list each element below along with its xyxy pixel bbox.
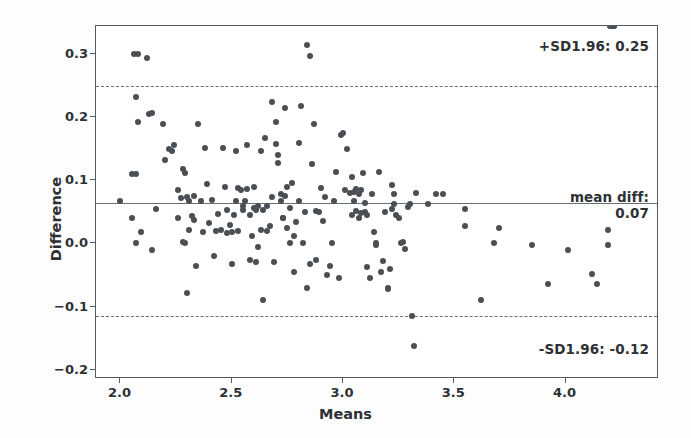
bland-altman-figure: Difference 0.30.20.10.0−0.1−0.2 +SD1.96:… (0, 0, 691, 438)
scatter-point (255, 244, 261, 250)
scatter-point (331, 198, 337, 204)
mean-diff-value: 0.07 (570, 205, 649, 221)
y-tick-label: 0.0 (48, 235, 88, 250)
scatter-point (242, 198, 248, 204)
upper-loa-annotation: +SD1.96: 0.25 (539, 38, 649, 54)
scatter-point (253, 259, 259, 265)
scatter-point (235, 228, 241, 234)
scatter-point (304, 285, 310, 291)
scatter-point (425, 201, 431, 207)
scatter-point (349, 174, 355, 180)
scatter-point (336, 275, 342, 281)
scatter-point (296, 198, 302, 204)
scatter-point (318, 185, 324, 191)
scatter-point (144, 55, 150, 61)
scatter-point (202, 145, 208, 151)
scatter-point (149, 247, 155, 253)
scatter-point (149, 110, 155, 116)
scatter-point (153, 206, 159, 212)
scatter-point (491, 240, 497, 246)
scatter-point (407, 201, 413, 207)
scatter-point (327, 263, 333, 269)
scatter-point (244, 186, 250, 192)
x-tick-label: 4.0 (553, 385, 576, 400)
scatter-point (402, 246, 408, 252)
scatter-point (275, 160, 281, 166)
scatter-point (545, 281, 551, 287)
scatter-point (178, 195, 184, 201)
scatter-point (133, 171, 139, 177)
scatter-point (462, 223, 468, 229)
scatter-point (291, 269, 297, 275)
scatter-point (182, 170, 188, 176)
scatter-point (211, 253, 217, 259)
lower-loa-annotation: -SD1.96: -0.12 (539, 341, 649, 357)
scatter-point (360, 170, 366, 176)
scatter-point (356, 215, 362, 221)
scatter-point (273, 141, 279, 147)
scatter-point (238, 187, 244, 193)
y-tick-label: 0.2 (48, 109, 88, 124)
scatter-point (300, 240, 306, 246)
scatter-point (171, 142, 177, 148)
scatter-point (273, 119, 279, 125)
scatter-point (206, 220, 212, 226)
scatter-point (344, 146, 350, 152)
scatter-point (376, 169, 382, 175)
scatter-point (385, 285, 391, 291)
scatter-point (162, 157, 168, 163)
scatter-point (251, 184, 257, 190)
scatter-point (129, 215, 135, 221)
x-tick-mark (453, 378, 454, 383)
scatter-point (233, 198, 239, 204)
scatter-point (160, 121, 166, 127)
scatter-point (182, 240, 188, 246)
scatter-point (258, 227, 264, 233)
scatter-point (222, 184, 228, 190)
scatter-point (389, 182, 395, 188)
scatter-point (462, 206, 468, 212)
x-axis-title: Means (0, 406, 691, 422)
scatter-point (364, 264, 370, 270)
scatter-point (195, 121, 201, 127)
scatter-point (358, 187, 364, 193)
scatter-point (605, 242, 611, 248)
scatter-point (275, 152, 281, 158)
y-tick-label: 0.1 (48, 172, 88, 187)
scatter-point (589, 271, 595, 277)
scatter-point (400, 239, 406, 245)
scatter-point (605, 227, 611, 233)
scatter-point (296, 140, 302, 146)
scatter-point (329, 240, 335, 246)
scatter-point (409, 313, 415, 319)
scatter-point (175, 187, 181, 193)
scatter-point (391, 191, 397, 197)
scatter-point (231, 212, 237, 218)
x-tick-mark (231, 378, 232, 383)
scatter-point (282, 105, 288, 111)
scatter-point (351, 198, 357, 204)
scatter-point (320, 218, 326, 224)
scatter-point (611, 25, 617, 29)
scatter-point (169, 148, 175, 154)
scatter-point (307, 261, 313, 267)
scatter-point (184, 290, 190, 296)
mean-diff-label: mean diff: (570, 189, 649, 205)
scatter-point (227, 222, 233, 228)
scatter-point (298, 103, 304, 109)
scatter-point (324, 272, 330, 278)
scatter-point (262, 135, 268, 141)
scatter-point (233, 148, 239, 154)
scatter-point (369, 191, 375, 197)
scatter-point (478, 297, 484, 303)
scatter-point (204, 181, 210, 187)
scatter-point (373, 242, 379, 248)
scatter-point (396, 215, 402, 221)
x-tick-label: 3.0 (330, 385, 353, 400)
scatter-point (135, 51, 141, 57)
scatter-point (496, 225, 502, 231)
scatter-point (322, 194, 328, 200)
scatter-point (224, 207, 230, 213)
scatter-point (229, 229, 235, 235)
scatter-point (313, 257, 319, 263)
